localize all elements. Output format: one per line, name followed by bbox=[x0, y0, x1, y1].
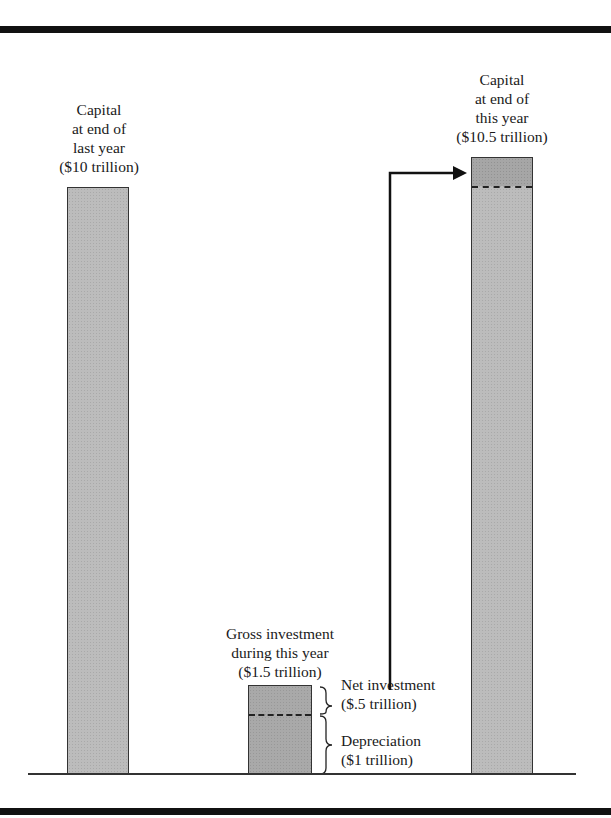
depreciation-brace-icon bbox=[320, 716, 332, 774]
net-investment-brace-icon bbox=[320, 687, 332, 714]
baseline bbox=[28, 773, 576, 775]
arrow-head-icon bbox=[453, 166, 467, 180]
diagram-overlay bbox=[0, 0, 611, 818]
arrow-line bbox=[390, 173, 455, 690]
bottom-rule bbox=[0, 808, 611, 815]
